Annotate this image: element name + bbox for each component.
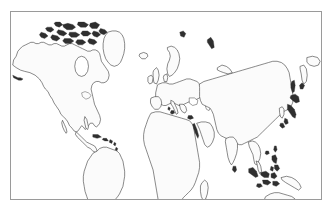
map-frame	[10, 11, 322, 200]
region-korea[interactable]	[280, 107, 284, 118]
region-denmark-jutland[interactable]	[163, 74, 167, 82]
page-root	[0, 0, 333, 212]
region-iceland[interactable]	[139, 52, 148, 58]
world-map[interactable]	[11, 12, 321, 199]
